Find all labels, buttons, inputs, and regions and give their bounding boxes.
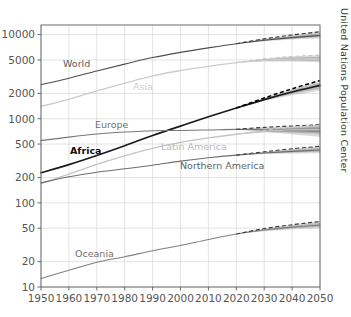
y-tick-label-2000: 2000 [8, 87, 35, 99]
y-tick-label-10: 10 [22, 281, 35, 293]
source-credit: United Nations Population Center [339, 8, 350, 173]
x-tick-label-1960: 1960 [56, 292, 83, 304]
series-label-northern-america: Northern America [180, 160, 264, 171]
x-tick-label-1980: 1980 [111, 292, 138, 304]
x-tick-label-2050: 2050 [307, 292, 334, 304]
chart-background [0, 0, 351, 317]
x-tick-label-2030: 2030 [251, 292, 278, 304]
y-tick-label-5000: 5000 [8, 54, 35, 66]
series-label-africa: Africa [70, 145, 101, 156]
population-chart-figure: 10000500020001000500200100502010 1950196… [0, 0, 351, 317]
y-tick-label-100: 100 [15, 197, 35, 209]
chart-canvas: 10000500020001000500200100502010 1950196… [0, 0, 351, 317]
y-tick-label-200: 200 [15, 171, 35, 183]
y-tick-label-1000: 1000 [8, 113, 35, 125]
series-label-asia: Asia [133, 81, 153, 92]
series-label-europe: Europe [95, 119, 129, 130]
x-tick-label-2020: 2020 [223, 292, 250, 304]
x-tick-label-2000: 2000 [167, 292, 194, 304]
x-tick-label-1950: 1950 [28, 292, 55, 304]
y-tick-label-500: 500 [15, 138, 35, 150]
y-tick-label-10000: 10000 [2, 28, 35, 40]
x-tick-label-2010: 2010 [195, 292, 222, 304]
series-label-world: World [63, 58, 90, 69]
y-tick-label-20: 20 [22, 255, 35, 267]
y-tick-label-50: 50 [22, 222, 35, 234]
x-tick-label-1970: 1970 [83, 292, 110, 304]
series-label-oceania: Oceania [75, 248, 114, 259]
x-tick-label-2040: 2040 [279, 292, 306, 304]
series-label-latin-america: Latin America [161, 141, 227, 152]
x-tick-label-1990: 1990 [139, 292, 166, 304]
